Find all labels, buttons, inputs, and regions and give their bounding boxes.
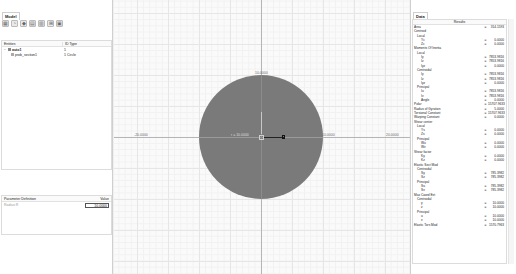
entity-tree: Entities ID Type − auto1 1 prob_section1…: [1, 40, 112, 170]
copy-icon[interactable]: ▥: [38, 20, 45, 27]
circle-shape-icon: [11, 53, 14, 56]
mesh-icon[interactable]: ⊞: [47, 20, 54, 27]
col-entities[interactable]: Entities: [2, 42, 62, 46]
radius-label: r = 10.0000: [231, 133, 249, 137]
tree-item-id: 1 Circle: [62, 53, 111, 57]
tree-item-id: 1: [62, 48, 111, 52]
y-direction-arrow: [261, 112, 262, 134]
parameter-table: Parameter Definition Value Radius R 10.0…: [1, 195, 112, 235]
tree-row-auto1[interactable]: − auto1 1: [2, 47, 111, 52]
dimension-label-top: 10.0000: [255, 71, 268, 75]
col-id-type[interactable]: ID Type: [62, 42, 111, 46]
shear-center-marker-icon: [282, 135, 285, 139]
result-label: Elastic Tors Mod: [413, 223, 483, 227]
axis-label-right: 20.0000: [386, 133, 399, 137]
results-scrollbar[interactable]: [508, 19, 514, 264]
tree-item-label: auto1: [12, 48, 21, 52]
radius-value-input[interactable]: 10.0000: [85, 203, 109, 208]
model-panel: Model ▦ ◔ ◆ ▤ ▥ ⊞ ▣ Entities ID Type − a…: [0, 0, 113, 274]
model-tabbar: Model: [0, 12, 113, 19]
dimension-label-right: 10.0000: [322, 133, 335, 137]
tree-row-prob-section1[interactable]: prob_section1 1 Circle: [2, 52, 111, 57]
new-section-icon[interactable]: ▦: [2, 20, 9, 27]
results-table: Results Area=314.1593CentroidLocalYc=0.0…: [412, 19, 507, 264]
parameter-name: Radius R: [4, 203, 18, 207]
data-panel: Data Results Area=314.1593CentroidLocalY…: [410, 0, 516, 274]
col-parameter-definition: Parameter Definition: [4, 197, 36, 201]
properties-icon[interactable]: ▤: [29, 20, 36, 27]
section-icon: [8, 48, 11, 51]
axis-label-left: -20.0000: [134, 133, 148, 137]
results-body: Area=314.1593CentroidLocalYc=0.0000Zc=0.…: [413, 25, 506, 227]
drawing-viewport[interactable]: 10.0000 10.0000 r = 10.0000 -20.0000 20.…: [114, 0, 410, 274]
delete-icon[interactable]: ◆: [20, 20, 27, 27]
result-value: 1570.7963: [488, 223, 506, 227]
parameter-row: Radius R 10.0000: [2, 202, 111, 208]
x-direction-arrow: [264, 137, 284, 138]
result-row: Elastic Tors Mod=1570.7963: [413, 223, 506, 227]
col-value: Value: [100, 197, 109, 201]
tab-model[interactable]: Model: [2, 12, 20, 20]
export-icon[interactable]: ▣: [56, 20, 63, 27]
add-shape-icon[interactable]: ◔: [11, 20, 18, 27]
model-toolbar: ▦ ◔ ◆ ▤ ▥ ⊞ ▣: [2, 20, 63, 28]
collapse-icon[interactable]: −: [4, 48, 7, 52]
tree-item-label: prob_section1: [15, 53, 37, 57]
